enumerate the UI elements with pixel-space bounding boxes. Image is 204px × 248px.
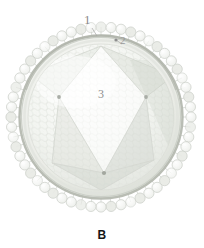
callout-label-1: 1 [84, 13, 91, 26]
figure-panel-b: 1 2 3 B [0, 0, 204, 248]
callout-label-2: 2 [120, 35, 126, 46]
panel-letter-label: B [0, 228, 204, 242]
virus-particle-illustration [0, 0, 204, 248]
callout-label-3: 3 [98, 88, 104, 100]
